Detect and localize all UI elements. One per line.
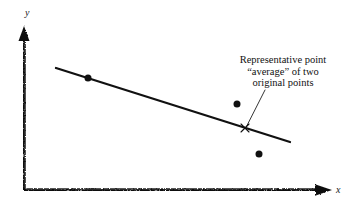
annotation-line-1: Representative point xyxy=(218,54,348,66)
annotation-line-2: “average” of two xyxy=(218,66,348,78)
annotation-line-3: original points xyxy=(218,77,348,89)
data-point xyxy=(256,151,263,158)
y-axis-arrowhead xyxy=(19,26,30,41)
data-point xyxy=(234,101,241,108)
regression-figure: y x Representative point “average” of tw… xyxy=(0,0,357,212)
x-axis-label: x xyxy=(336,185,340,195)
annotation-caption: Representative point “average” of two or… xyxy=(218,54,348,89)
y-axis-label: y xyxy=(25,8,29,18)
x-axis-arrowhead xyxy=(315,184,332,196)
annotation-leader-line xyxy=(247,90,266,127)
data-point xyxy=(85,75,92,82)
x-axis xyxy=(24,189,320,190)
plot-canvas xyxy=(0,0,357,212)
y-axis xyxy=(24,36,25,190)
